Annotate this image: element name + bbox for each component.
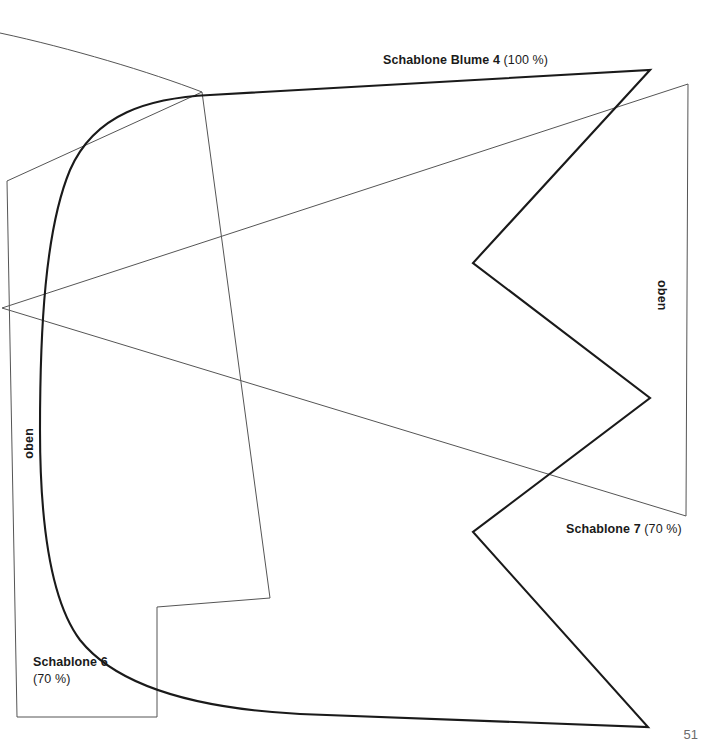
label-schablone-6: Schablone 6 (70 %) bbox=[33, 654, 108, 688]
label-schablone-7-scale: (70 %) bbox=[644, 522, 681, 536]
pattern-drawing bbox=[0, 0, 712, 755]
label-schablone-blume-4: Schablone Blume 4 (100 %) bbox=[383, 52, 548, 69]
label-schablone-6-name: Schablone 6 bbox=[33, 655, 108, 669]
label-oben-left: oben bbox=[22, 428, 36, 459]
shape-schablone-7 bbox=[2, 84, 688, 516]
shape-guide-arc-top bbox=[0, 33, 202, 92]
label-oben-right: oben bbox=[655, 280, 669, 311]
page-number: 51 bbox=[684, 727, 698, 742]
shape-schablone-6 bbox=[7, 92, 270, 717]
label-schablone-7-name: Schablone 7 bbox=[566, 522, 641, 536]
label-schablone-blume-4-scale: (100 %) bbox=[504, 53, 548, 67]
label-schablone-6-scale: (70 %) bbox=[33, 672, 70, 686]
label-schablone-blume-4-name: Schablone Blume 4 bbox=[383, 53, 500, 67]
label-schablone-7: Schablone 7 (70 %) bbox=[566, 521, 682, 538]
pattern-sheet: Schablone Blume 4 (100 %) Schablone 7 (7… bbox=[0, 0, 712, 755]
shape-schablone-blume-4 bbox=[40, 70, 650, 727]
